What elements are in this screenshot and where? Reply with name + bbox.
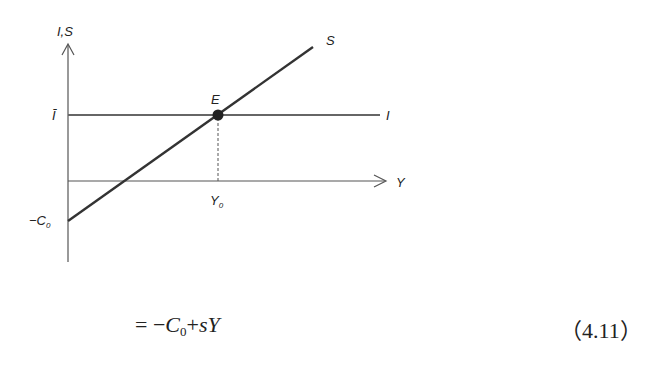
is-diagram: I,S Y I Ī S E Y0 −C0: [0, 0, 645, 370]
equation-number: （4.11）: [560, 312, 642, 344]
equation-c: C: [165, 312, 180, 337]
investment-line-label: I: [386, 108, 390, 123]
investment-level-label: Ī: [52, 108, 57, 123]
y-axis-label: I,S: [57, 24, 73, 39]
equilibrium-label: E: [211, 92, 220, 107]
equilibrium-point: [213, 110, 224, 121]
equation-prefix: = −: [135, 312, 165, 337]
saving-line-label: S: [326, 33, 335, 48]
saving-line: [68, 47, 313, 221]
saving-intercept-label: −C0: [29, 213, 51, 230]
equation-y: Y: [208, 312, 220, 337]
equation-s: s: [199, 312, 208, 337]
equation: = −C0+sY: [135, 312, 220, 340]
equilibrium-income-label: Y0: [210, 193, 224, 210]
x-axis-label: Y: [396, 175, 406, 190]
equation-plus: +: [187, 312, 199, 337]
